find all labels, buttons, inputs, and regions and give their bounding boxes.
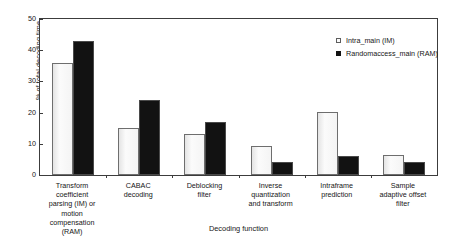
- x-category-label: CABACdecoding: [105, 181, 171, 199]
- x-category-label-line: filter: [171, 190, 237, 199]
- bar: [404, 162, 425, 175]
- x-axis-category-labels: Transform coefficientparsing (IM) or mot…: [39, 181, 438, 223]
- y-tick-label: 30: [14, 77, 36, 84]
- y-tick-label: 0: [14, 171, 36, 178]
- x-category-label-line: quantization: [238, 190, 304, 199]
- legend-item: Randomaccess_main (RAM): [336, 50, 438, 57]
- bar: [73, 41, 94, 175]
- legend: Intra_main (IM)Randomaccess_main (RAM): [336, 37, 438, 63]
- x-category-label-line: Sample: [370, 181, 436, 190]
- bar: [52, 63, 73, 175]
- x-category-label-line: decoding: [105, 190, 171, 199]
- x-tick-mark: [371, 175, 372, 178]
- legend-label: Randomaccess_main (RAM): [346, 50, 438, 57]
- y-tick-label: 40: [14, 46, 36, 53]
- x-tick-mark: [305, 175, 306, 178]
- x-category-label-line: Transform coefficient: [39, 181, 105, 199]
- x-category-label-line: parsing (IM) or motion: [39, 199, 105, 217]
- bar: [184, 134, 205, 175]
- plot-area: 01020304050 Intra_main (IM)Randomaccess_…: [39, 18, 438, 176]
- x-category-label: Inversequantizationand transform: [238, 181, 304, 209]
- bar-chart-figure: % of total decoding time 01020304050 Int…: [0, 0, 449, 239]
- legend-item: Intra_main (IM): [336, 37, 438, 44]
- bar: [118, 128, 139, 175]
- legend-label: Intra_main (IM): [346, 37, 395, 44]
- y-tick-label: 10: [14, 140, 36, 147]
- bar: [383, 155, 404, 175]
- x-category-label-line: adaptive offset: [370, 190, 436, 199]
- x-tick-mark: [106, 175, 107, 178]
- bar-group: [106, 19, 172, 175]
- x-category-label-line: Deblocking: [171, 181, 237, 190]
- y-tick-label: 20: [14, 109, 36, 116]
- bar-group: [40, 19, 106, 175]
- bar: [251, 146, 272, 175]
- bar: [317, 112, 338, 175]
- bar: [338, 156, 359, 175]
- x-category-label: Deblockingfilter: [171, 181, 237, 199]
- y-tick-mark: [40, 175, 43, 176]
- legend-swatch-icon: [336, 51, 341, 56]
- y-tick-label: 50: [14, 15, 36, 22]
- bar: [205, 122, 226, 175]
- bar: [139, 100, 160, 176]
- x-category-label: Sampleadaptive offsetfilter: [370, 181, 436, 209]
- x-category-label-line: filter: [370, 199, 436, 208]
- bar-group: [239, 19, 305, 175]
- x-category-label-line: CABAC: [105, 181, 171, 190]
- x-category-label-line: and transform: [238, 199, 304, 208]
- x-category-label: Intraframeprediction: [304, 181, 370, 199]
- x-tick-mark: [172, 175, 173, 178]
- x-category-label-line: Inverse: [238, 181, 304, 190]
- bar: [272, 162, 293, 175]
- bar-group: [172, 19, 238, 175]
- legend-swatch-icon: [336, 38, 341, 43]
- x-category-label-line: Intraframe: [304, 181, 370, 190]
- x-category-label-line: prediction: [304, 190, 370, 199]
- x-tick-mark: [239, 175, 240, 178]
- x-axis-title: Decoding function: [39, 224, 438, 233]
